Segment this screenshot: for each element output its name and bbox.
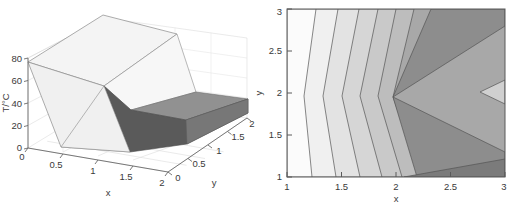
z-axis-ticks: 0 20 40 60 80 — [11, 53, 28, 154]
y-tick-2: 2 — [249, 118, 254, 129]
x-tick-1: 1 — [90, 165, 95, 176]
contour-y-tick-2p5: 2.5 — [269, 45, 282, 56]
z-tick-60: 60 — [11, 75, 22, 86]
figure-canvas: 0 20 40 60 80 0 0.5 1 1.5 2 — [0, 0, 513, 205]
contour-regions — [287, 9, 505, 177]
y-tick-0p5: 0.5 — [192, 158, 205, 169]
z-axis-title: T/°C — [0, 93, 11, 112]
x-tick-2: 2 — [159, 177, 164, 188]
surface-plot-svg: 0 20 40 60 80 0 0.5 1 1.5 2 — [0, 0, 256, 205]
contour-y-tick-2: 2 — [277, 87, 282, 98]
surface-plot-panel: 0 20 40 60 80 0 0.5 1 1.5 2 — [0, 0, 256, 205]
contour-x-axis-title: x — [394, 193, 399, 204]
contour-plot-svg: 1 1.5 2 2.5 3 x 1 1.5 2 2.5 — [256, 0, 513, 205]
x-tick-0: 0 — [19, 151, 24, 162]
contour-x-tick-1p5: 1.5 — [335, 181, 348, 192]
z-tick-80: 80 — [11, 53, 22, 64]
y-tick-1p5: 1.5 — [231, 131, 244, 142]
y-tick-0: 0 — [175, 172, 180, 183]
contour-plot-panel: 1 1.5 2 2.5 3 x 1 1.5 2 2.5 — [256, 0, 513, 205]
contour-x-tick-1: 1 — [284, 181, 289, 192]
y-axis-title: y — [212, 177, 217, 188]
z-tick-40: 40 — [11, 98, 22, 109]
contour-y-tick-3: 3 — [277, 6, 282, 17]
contour-y-tick-1: 1 — [277, 171, 282, 182]
contour-y-axis-title: y — [256, 90, 264, 95]
x-axis-title: x — [106, 187, 111, 198]
contour-x-tick-2p5: 2.5 — [444, 181, 457, 192]
z-tick-20: 20 — [11, 120, 22, 131]
contour-y-tick-1p5: 1.5 — [269, 129, 282, 140]
y-tick-1: 1 — [216, 145, 221, 156]
surface-mesh — [28, 15, 248, 152]
x-tick-0p5: 0.5 — [49, 159, 62, 170]
contour-x-tick-3: 3 — [501, 181, 506, 192]
contour-x-tick-2: 2 — [393, 181, 398, 192]
x-tick-1p5: 1.5 — [119, 171, 132, 182]
